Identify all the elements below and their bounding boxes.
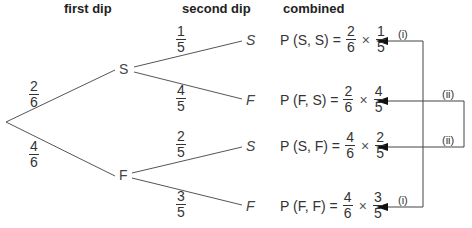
bracket-label-ii-bottom: (ii)	[442, 134, 454, 146]
times-sign: ×	[359, 198, 367, 214]
combined-sf: P (S, F) = 46 × 25	[280, 130, 387, 161]
bracket-label-ii-top: (ii)	[442, 88, 454, 100]
times-sign: ×	[361, 138, 369, 154]
combined-fs: P (F, S) = 26 × 45	[280, 84, 386, 115]
leaf-s-1: S	[246, 32, 255, 48]
bracket-label-i-top: (i)	[398, 28, 408, 40]
combined-label: P (F, F) =	[280, 198, 338, 214]
branch-prob-first-s: 26	[29, 79, 39, 110]
leaf-s-2: S	[246, 138, 255, 154]
node-first-s: S	[119, 61, 128, 77]
branch-prob-first-f: 46	[29, 139, 39, 170]
leaf-f-1: F	[246, 92, 255, 108]
times-sign: ×	[359, 92, 367, 108]
node-first-f: F	[119, 167, 128, 183]
leaf-f-2: F	[246, 198, 255, 214]
bracket-label-i-bottom: (i)	[398, 194, 408, 206]
combined-label: P (S, S) =	[280, 32, 341, 48]
combined-label: P (S, F) =	[280, 138, 340, 154]
times-sign: ×	[362, 32, 370, 48]
combined-ss: P (S, S) = 26 × 15	[280, 24, 388, 55]
branch-prob-ss: 15	[176, 24, 186, 55]
combined-label: P (F, S) =	[280, 92, 338, 108]
branch-prob-ff: 35	[176, 189, 186, 220]
branch-prob-fs: 25	[176, 129, 186, 160]
combined-ff: P (F, F) = 46 × 35	[280, 190, 385, 221]
branch-prob-sf: 45	[176, 83, 186, 114]
